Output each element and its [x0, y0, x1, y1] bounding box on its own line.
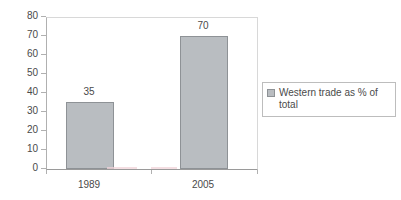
y-tick-label: 60 [27, 48, 38, 60]
x-axis-label-2005: 2005 [179, 179, 227, 191]
bar-value-label-2005: 70 [179, 20, 227, 32]
y-tick-label: 30 [27, 105, 38, 117]
legend-item-label: Western trade as % of total [279, 87, 391, 111]
bar-chart: 80 70 60 50 40 30 20 10 0 35 70 1989 [0, 0, 401, 200]
baseline-artifact [107, 167, 137, 169]
x-tick-mark [257, 170, 258, 174]
y-tick-label: 0 [32, 162, 38, 174]
baseline-artifact [151, 167, 177, 169]
y-tick-label: 20 [27, 124, 38, 136]
x-tick-mark [46, 170, 47, 174]
x-axis-label-1989: 1989 [65, 179, 113, 191]
legend-item-western-trade[interactable]: Western trade as % of total [267, 87, 391, 111]
bar-2005[interactable] [180, 36, 228, 169]
x-tick-mark [151, 170, 152, 174]
bar-value-label-1989: 35 [65, 86, 113, 98]
legend: Western trade as % of total [262, 82, 396, 117]
y-axis: 80 70 60 50 40 30 20 10 0 [0, 10, 46, 176]
y-tick-label: 40 [27, 86, 38, 98]
y-tick-label: 10 [27, 143, 38, 155]
y-tick-label: 50 [27, 67, 38, 79]
legend-swatch-icon [267, 89, 275, 97]
x-axis: 1989 2005 [46, 170, 258, 196]
y-tick-label: 80 [27, 10, 38, 22]
bar-1989[interactable] [66, 102, 114, 169]
y-tick-label: 70 [27, 29, 38, 41]
